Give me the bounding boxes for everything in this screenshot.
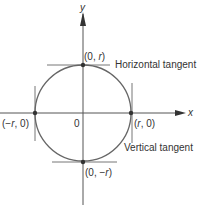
point-left <box>33 111 37 115</box>
circle-tangent-diagram: x y (0, r) (0, −r) (−r, 0) (r, 0) 0 Hori… <box>0 0 197 214</box>
point-right-label: (r, 0) <box>134 118 155 129</box>
point-right <box>129 111 133 115</box>
y-axis-label: y <box>79 2 86 13</box>
vertical-tangent-annotation: Vertical tangent <box>124 142 193 153</box>
point-bottom <box>81 160 85 164</box>
point-top-label: (0, r) <box>84 51 105 62</box>
point-left-label: (−r, 0) <box>2 118 29 129</box>
horizontal-tangent-annotation: Horizontal tangent <box>115 59 196 70</box>
y-axis-arrow-icon <box>80 12 86 26</box>
point-top <box>81 63 85 67</box>
x-axis-arrow-icon <box>175 110 186 116</box>
origin-label: 0 <box>74 118 80 129</box>
point-bottom-label: (0, −r) <box>85 167 112 178</box>
x-axis-label: x <box>187 107 194 118</box>
